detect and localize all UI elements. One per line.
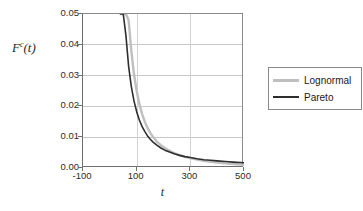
chart-figure: Fc(t) 0.000.010.020.030.040.05 -10010030… <box>0 0 363 211</box>
y-tick-label: 0.05 <box>39 8 79 18</box>
x-tick-mark <box>243 167 244 171</box>
scan-artifact-strip <box>0 205 363 209</box>
legend-swatch-pareto <box>273 96 299 98</box>
x-axis-title: t <box>82 185 243 200</box>
chart-legend: Lognormal Pareto <box>268 67 362 110</box>
x-tick-label: 300 <box>167 170 211 181</box>
legend-label-pareto: Pareto <box>304 92 333 103</box>
series-line-pareto <box>121 14 244 163</box>
legend-item-lognormal: Lognormal <box>273 72 351 88</box>
series-curves <box>83 14 244 168</box>
legend-item-pareto: Pareto <box>273 89 333 105</box>
y-axis-title-argument: (t) <box>24 40 36 55</box>
y-axis-title-base: F <box>12 40 20 55</box>
x-tick-mark <box>136 167 137 171</box>
x-tick-mark <box>189 167 190 171</box>
x-tick-mark <box>82 167 83 171</box>
series-line-lognormal <box>121 14 244 165</box>
legend-swatch-lognormal <box>273 79 299 82</box>
y-tick-label: 0.02 <box>39 100 79 110</box>
x-tick-label: -100 <box>60 170 104 181</box>
y-tick-label: 0.03 <box>39 70 79 80</box>
x-tick-label: 500 <box>221 170 265 181</box>
plot-area <box>82 13 243 167</box>
y-tick-label: 0.01 <box>39 131 79 141</box>
legend-label-lognormal: Lognormal <box>304 75 351 86</box>
x-tick-label: 100 <box>114 170 158 181</box>
y-tick-label: 0.04 <box>39 39 79 49</box>
